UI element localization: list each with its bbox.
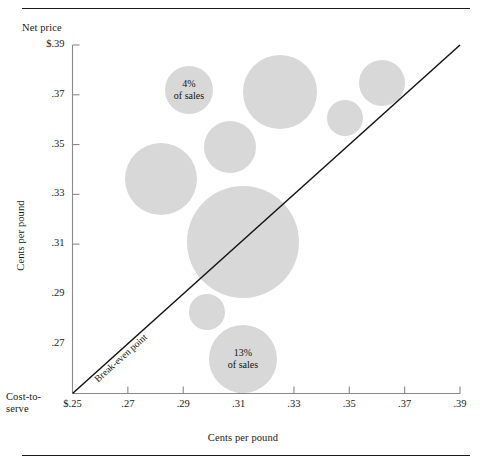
x-axis-ticks <box>128 387 460 394</box>
y-tick-label: .35 <box>31 138 65 149</box>
x-tick-label: $.25 <box>53 398 93 409</box>
bubble-label-b9: 13%of sales <box>203 347 283 370</box>
bubble-b4 <box>327 100 363 136</box>
bubble-b2 <box>243 55 317 129</box>
y-tick-label: .37 <box>31 88 65 99</box>
bubble-label-caption: of sales <box>149 90 229 102</box>
x-tick-label: .27 <box>108 398 148 409</box>
x-tick-label: .35 <box>329 398 369 409</box>
x-tick-label: .31 <box>219 398 259 409</box>
bubble-b3 <box>359 60 405 106</box>
bubble-b7 <box>187 186 299 298</box>
bubble-chart-figure: Net price Cost-to-serve Cents per pound … <box>0 0 486 469</box>
bubble-b8 <box>189 294 225 330</box>
y-tick-label: .29 <box>31 287 65 298</box>
x-tick-label: .29 <box>163 398 203 409</box>
bubble-label-b1: 4%of sales <box>149 78 229 101</box>
bubble-label-caption: of sales <box>203 359 283 371</box>
bubble-label-percent: 4% <box>149 78 229 90</box>
y-axis-ticks <box>73 45 80 244</box>
x-tick-label: .33 <box>274 398 314 409</box>
y-tick-label: .33 <box>31 187 65 198</box>
y-tick-label: $.39 <box>31 38 65 49</box>
x-tick-label: .37 <box>385 398 425 409</box>
bubble-b6 <box>125 143 197 215</box>
y-tick-label: .27 <box>31 337 65 348</box>
y-tick-label: .31 <box>31 237 65 248</box>
x-tick-label: .39 <box>440 398 480 409</box>
bubble-b5 <box>204 121 256 173</box>
bubbles <box>125 55 405 393</box>
bubble-label-percent: 13% <box>203 347 283 359</box>
